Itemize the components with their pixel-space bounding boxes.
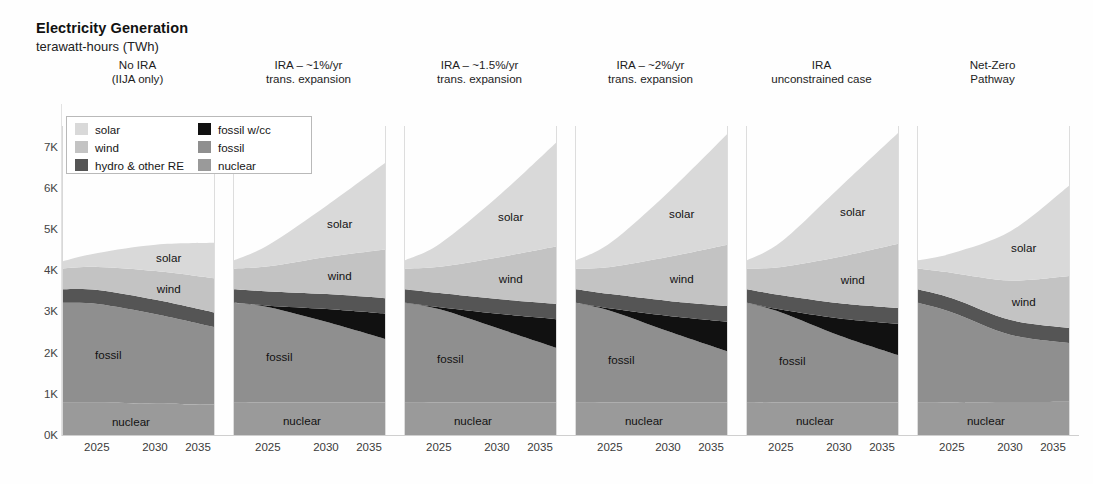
series-label-nuclear: nuclear xyxy=(967,414,1005,427)
series-label-nuclear: nuclear xyxy=(796,414,834,427)
stacked-area-group xyxy=(918,126,1069,435)
series-label-nuclear: nuclear xyxy=(283,414,321,427)
panel-title-line: Pathway xyxy=(917,72,1068,86)
y-axis-tick-label: 5K xyxy=(44,223,58,235)
legend-swatch-icon xyxy=(198,159,211,171)
series-label-fossil: fossil xyxy=(95,348,121,361)
chart-panel-5: IRAunconstrained casesolarwindfossilnucl… xyxy=(746,104,897,438)
y-axis-tick-label: 7K xyxy=(44,141,58,153)
x-axis: 202520302035 xyxy=(575,441,726,461)
legend-swatch-icon xyxy=(75,141,88,153)
area-solar xyxy=(576,134,727,268)
chart-panel-6: Net-ZeroPathwaysolarwindnuclear202520302… xyxy=(917,104,1068,438)
legend-column-1: fossil w/ccfossilnuclear xyxy=(198,122,271,172)
x-axis-tick-label: 2030 xyxy=(142,441,168,453)
panel-plot: solarwindnuclear xyxy=(917,126,1070,435)
x-axis-tick-label: 2035 xyxy=(527,441,553,453)
panel-title: No IRA(IIJA only) xyxy=(62,58,213,86)
series-label-solar: solar xyxy=(156,251,181,264)
panel-title-line: trans. expansion xyxy=(404,72,555,86)
legend-swatch-icon xyxy=(198,123,211,135)
series-label-wind: wind xyxy=(328,269,352,282)
x-axis-tick-label: 2025 xyxy=(84,441,110,453)
legend-swatch-icon xyxy=(198,141,211,153)
legend-label: fossil w/cc xyxy=(218,123,271,136)
panel-title: IRA – ~1.5%/yrtrans. expansion xyxy=(404,58,555,86)
legend-swatch-icon xyxy=(75,159,88,171)
panel-title-line: unconstrained case xyxy=(746,72,897,86)
panel-title-line: IRA – ~2%/yr xyxy=(575,58,726,72)
series-label-wind: wind xyxy=(499,271,523,284)
chart-legend: solarwindhydro & other REfossil w/ccfoss… xyxy=(66,116,312,174)
x-axis-tick-label: 2035 xyxy=(698,441,724,453)
panel-title-line: trans. expansion xyxy=(575,72,726,86)
panel-title-line: IRA – ~1.5%/yr xyxy=(404,58,555,72)
legend-item-fossil-w-cc[interactable]: fossil w/cc xyxy=(198,122,271,136)
series-label-fossil: fossil xyxy=(608,352,634,365)
panel-plot: solarwindfossilnuclear xyxy=(575,126,728,435)
panel-title: IRA – ~2%/yrtrans. expansion xyxy=(575,58,726,86)
y-axis-tick-label: 3K xyxy=(44,305,58,317)
x-axis: 202520302035 xyxy=(746,441,897,461)
y-axis-tick-label: 0K xyxy=(44,429,58,441)
series-label-solar: solar xyxy=(327,216,352,229)
legend-item-hydro-other-re[interactable]: hydro & other RE xyxy=(75,158,184,172)
x-axis-baseline xyxy=(62,435,1079,436)
x-axis-tick-label: 2025 xyxy=(426,441,452,453)
series-label-fossil: fossil xyxy=(437,351,463,364)
x-axis-tick-label: 2030 xyxy=(997,441,1023,453)
x-axis: 202520302035 xyxy=(917,441,1068,461)
series-label-solar: solar xyxy=(1011,241,1036,254)
x-axis-tick-label: 2030 xyxy=(313,441,339,453)
x-axis-tick-label: 2025 xyxy=(255,441,281,453)
panel-plot: solarwindfossilnuclear xyxy=(404,126,557,435)
x-axis: 202520302035 xyxy=(233,441,384,461)
legend-label: hydro & other RE xyxy=(95,159,184,172)
x-axis: 202520302035 xyxy=(62,441,213,461)
legend-label: wind xyxy=(95,141,119,154)
area-solar xyxy=(747,133,898,269)
x-axis-tick-label: 2030 xyxy=(655,441,681,453)
stacked-area-group xyxy=(576,126,727,435)
panel-title-line: IRA – ~1%/yr xyxy=(233,58,384,72)
legend-item-wind[interactable]: wind xyxy=(75,140,184,154)
legend-item-solar[interactable]: solar xyxy=(75,122,184,136)
legend-swatch-icon xyxy=(75,123,88,135)
y-axis-tick-label: 6K xyxy=(44,182,58,194)
area-solar xyxy=(405,143,556,269)
series-label-wind: wind xyxy=(157,281,181,294)
x-axis-tick-label: 2030 xyxy=(484,441,510,453)
chart-panel-4: IRA – ~2%/yrtrans. expansionsolarwindfos… xyxy=(575,104,726,438)
y-axis-tick-label: 1K xyxy=(44,388,58,400)
series-label-solar: solar xyxy=(498,210,523,223)
x-axis-tick-label: 2025 xyxy=(768,441,794,453)
panel-title: IRAunconstrained case xyxy=(746,58,897,86)
series-label-wind: wind xyxy=(670,272,694,285)
legend-item-nuclear[interactable]: nuclear xyxy=(198,158,271,172)
series-label-wind: wind xyxy=(1012,294,1036,307)
stacked-area-group xyxy=(747,126,898,435)
x-axis-tick-label: 2035 xyxy=(869,441,895,453)
panel-title-line: (IIJA only) xyxy=(62,72,213,86)
area-solar xyxy=(918,186,1069,281)
panel-title: Net-ZeroPathway xyxy=(917,58,1068,86)
series-label-wind: wind xyxy=(841,273,865,286)
x-axis-tick-label: 2025 xyxy=(939,441,965,453)
series-label-fossil: fossil xyxy=(779,353,805,366)
panel-plot: solarwindfossilnuclear xyxy=(746,126,899,435)
series-label-nuclear: nuclear xyxy=(454,414,492,427)
series-label-nuclear: nuclear xyxy=(625,414,663,427)
y-axis: 7K6K5K4K3K2K1K0K xyxy=(22,126,62,435)
x-axis-tick-label: 2035 xyxy=(1040,441,1066,453)
stacked-area-group xyxy=(405,126,556,435)
series-label-solar: solar xyxy=(669,206,694,219)
legend-label: solar xyxy=(95,123,120,136)
plot-area: 7K6K5K4K3K2K1K0K No IRA(IIJA only)solarw… xyxy=(0,0,1093,484)
series-label-nuclear: nuclear xyxy=(112,414,150,427)
x-axis-tick-label: 2025 xyxy=(597,441,623,453)
legend-column-0: solarwindhydro & other RE xyxy=(75,122,184,172)
legend-item-fossil[interactable]: fossil xyxy=(198,140,271,154)
x-axis-tick-label: 2030 xyxy=(826,441,852,453)
legend-label: fossil xyxy=(218,141,244,154)
x-axis-tick-label: 2035 xyxy=(356,441,382,453)
